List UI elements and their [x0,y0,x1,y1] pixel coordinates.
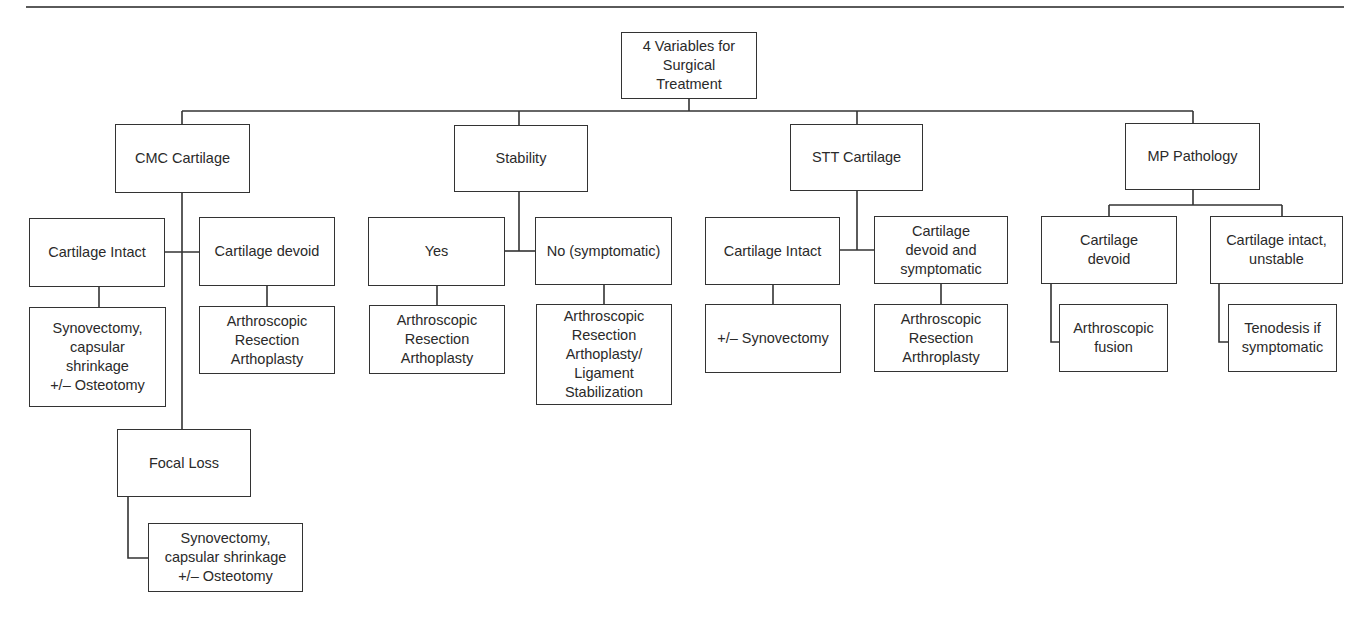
treatment-label: Arthroscopic Resection Arthoplasty [227,312,308,369]
stability-no: No (symptomatic) [535,217,672,285]
variable-mp-pathology: MP Pathology [1125,123,1260,190]
stt-intact-treatment: +/– Synovectomy [705,304,841,373]
variable-label: CMC Cartilage [135,149,230,168]
mp-intact-treatment: Tenodesis if symptomatic [1228,304,1337,372]
variable-stability: Stability [454,125,588,192]
treatment-label: +/– Synovectomy [717,329,829,348]
branch-label: Cartilage devoid and symptomatic [900,222,981,279]
branch-label: Cartilage Intact [48,243,146,262]
stt-cartilage-devoid: Cartilage devoid and symptomatic [874,216,1008,284]
treatment-label: Arthroscopic fusion [1073,319,1154,357]
cmc-intact-treatment: Synovectomy, capsular shrinkage +/– Oste… [29,307,166,407]
connector-mp-devoid-tx [1051,284,1059,342]
variable-label: MP Pathology [1147,147,1237,166]
variable-label: STT Cartilage [812,148,901,167]
treatment-label: Arthroscopic Resection Arthoplasty [397,311,478,368]
variable-label: Stability [496,149,547,168]
variable-stt-cartilage: STT Cartilage [790,124,923,191]
branch-label: Cartilage devoid [215,242,320,261]
root-label: 4 Variables for Surgical Treatment [643,37,735,94]
branch-label: Cartilage Intact [724,242,822,261]
stt-devoid-treatment: Arthroscopic Resection Arthroplasty [874,304,1008,372]
branch-label: Focal Loss [149,454,219,473]
branch-label: Yes [425,242,449,261]
stt-cartilage-intact: Cartilage Intact [705,217,840,285]
variable-cmc-cartilage: CMC Cartilage [115,124,250,193]
branch-label: No (symptomatic) [547,242,661,261]
branch-label: Cartilage intact, unstable [1226,231,1327,269]
stability-yes-treatment: Arthroscopic Resection Arthoplasty [369,305,505,374]
mp-cartilage-devoid: Cartilage devoid [1041,216,1177,284]
treatment-label: Arthroscopic Resection Arthroplasty [901,310,982,367]
mp-cartilage-intact-unstable: Cartilage intact, unstable [1210,216,1343,284]
cmc-focal-loss: Focal Loss [117,429,251,497]
treatment-label: Tenodesis if symptomatic [1242,319,1323,357]
cmc-devoid-treatment: Arthroscopic Resection Arthoplasty [199,306,335,374]
stability-no-treatment: Arthroscopic Resection Arthoplasty/ Liga… [536,304,672,405]
mp-devoid-treatment: Arthroscopic fusion [1059,304,1168,372]
cmc-cartilage-intact: Cartilage Intact [29,218,165,287]
treatment-label: Synovectomy, capsular shrinkage +/– Oste… [165,529,287,586]
root-node: 4 Variables for Surgical Treatment [621,32,757,99]
connector-mp-intact-tx [1219,284,1228,342]
cmc-focal-treatment: Synovectomy, capsular shrinkage +/– Oste… [148,523,303,592]
treatment-label: Synovectomy, capsular shrinkage +/– Oste… [50,319,145,395]
connector-cmc-focal-tx [128,497,148,558]
cmc-cartilage-devoid: Cartilage devoid [199,217,335,286]
treatment-label: Arthroscopic Resection Arthoplasty/ Liga… [564,307,645,402]
stability-yes: Yes [368,217,505,286]
branch-label: Cartilage devoid [1080,231,1138,269]
